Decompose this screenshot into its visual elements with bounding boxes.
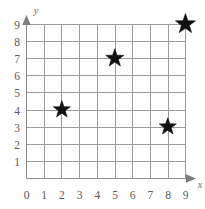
x-tick-4: 4 <box>94 189 100 201</box>
y-tick-5: 5 <box>14 87 20 99</box>
scatter-plot-figure: 9 8 7 6 5 4 3 2 1 0 1 2 3 4 5 6 7 8 9 y … <box>0 0 205 209</box>
y-tick-1: 1 <box>14 156 20 168</box>
plot-canvas: 9 8 7 6 5 4 3 2 1 0 1 2 3 4 5 6 7 8 9 y … <box>0 0 205 209</box>
y-tick-3: 3 <box>14 122 20 134</box>
y-tick-8: 8 <box>14 36 20 48</box>
y-tick-2: 2 <box>14 139 20 151</box>
x-axis-title: x <box>197 179 203 190</box>
x-tick-7: 7 <box>148 189 154 201</box>
y-tick-9: 9 <box>14 19 20 31</box>
x-tick-6: 6 <box>130 189 136 201</box>
y-tick-labels: 9 8 7 6 5 4 3 2 1 <box>14 19 20 168</box>
y-tick-7: 7 <box>14 53 20 65</box>
x-tick-3: 3 <box>77 189 83 201</box>
y-tick-4: 4 <box>14 105 20 117</box>
x-tick-5: 5 <box>112 189 118 201</box>
y-tick-6: 6 <box>14 70 20 82</box>
x-tick-0: 0 <box>24 189 30 201</box>
x-tick-8: 8 <box>165 189 171 201</box>
x-tick-9: 9 <box>183 189 189 201</box>
y-axis-title: y <box>33 5 39 16</box>
x-tick-2: 2 <box>59 189 65 201</box>
x-tick-1: 1 <box>41 189 47 201</box>
